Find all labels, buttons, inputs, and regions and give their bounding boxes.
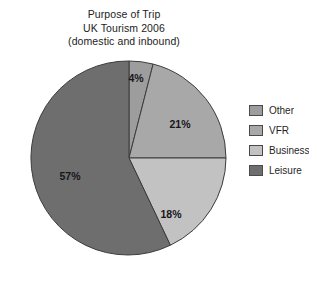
pie-svg: 4% 21% 18% 57% (30, 60, 228, 258)
legend-item-vfr[interactable]: VFR (249, 120, 309, 140)
legend-item-business[interactable]: Business (249, 140, 309, 160)
legend-swatch-other (249, 105, 263, 116)
legend-swatch-vfr (249, 125, 263, 136)
chart-title-line-2: UK Tourism 2006 (0, 22, 248, 36)
chart-title: Purpose of Trip UK Tourism 2006 (domesti… (0, 8, 248, 49)
legend-swatch-leisure (249, 165, 263, 176)
chart-legend: Other VFR Business Leisure (249, 100, 309, 180)
legend-item-other[interactable]: Other (249, 100, 309, 120)
chart-title-line-1: Purpose of Trip (0, 8, 248, 22)
legend-item-leisure[interactable]: Leisure (249, 160, 309, 180)
legend-label-business: Business (269, 145, 309, 156)
pie-chart-figure: Purpose of Trip UK Tourism 2006 (domesti… (0, 0, 309, 297)
pie-label-vfr: 21% (169, 118, 191, 130)
legend-label-vfr: VFR (269, 125, 289, 136)
pie-label-other: 4% (128, 72, 144, 84)
pie-plot-area: 4% 21% 18% 57% (30, 60, 228, 258)
legend-label-leisure: Leisure (269, 165, 302, 176)
legend-label-other: Other (269, 105, 294, 116)
legend-swatch-business (249, 145, 263, 156)
pie-label-business: 18% (160, 208, 182, 220)
chart-title-line-3: (domestic and inbound) (0, 35, 248, 49)
pie-label-leisure: 57% (59, 170, 81, 182)
